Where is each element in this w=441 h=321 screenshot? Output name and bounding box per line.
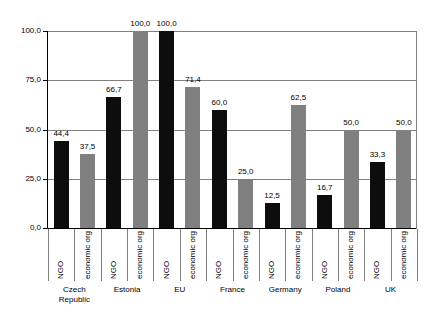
y-axis-tick-label: 75,0	[25, 76, 41, 84]
y-axis-tick-mark	[43, 31, 48, 32]
y-axis-tick-label: 25,0	[25, 175, 41, 183]
bar-value-label: 25,0	[229, 168, 263, 176]
country-group-separator	[259, 229, 260, 281]
bar[interactable]	[133, 31, 148, 228]
bar-chart: 0,025,050,075,0100,0 44,437,566,7100,010…	[0, 0, 441, 321]
series-label-ngo: NGO	[268, 261, 276, 279]
series-label-ngo: NGO	[373, 261, 381, 279]
bar[interactable]	[212, 110, 227, 228]
bar-value-label: 12,5	[255, 192, 289, 200]
bar-value-label: 37,5	[71, 143, 105, 151]
axis-separator	[74, 229, 75, 281]
bar[interactable]	[238, 179, 253, 228]
country-label: Czech Republic	[44, 285, 104, 305]
y-axis-tick-mark	[43, 228, 48, 229]
country-label: UK	[361, 285, 421, 295]
series-label-ngo: NGO	[163, 261, 171, 279]
bars-layer: 44,437,566,7100,0100,071,460,025,012,562…	[48, 31, 417, 228]
axis-separator	[391, 229, 392, 281]
series-label-economic-org: economic org	[136, 231, 144, 279]
y-axis-tick-mark	[43, 130, 48, 131]
bar-value-label: 33,3	[360, 151, 394, 159]
bar-value-label: 60,0	[202, 99, 236, 107]
series-label-economic-org: economic org	[189, 231, 197, 279]
bar[interactable]	[370, 162, 385, 228]
axis-separator	[338, 229, 339, 281]
axis-separator	[285, 229, 286, 281]
y-axis-tick-label: 0,0	[30, 224, 41, 232]
axis-separator	[180, 229, 181, 281]
axis-separator	[127, 229, 128, 281]
series-label-economic-org: economic org	[84, 231, 92, 279]
bar[interactable]	[265, 203, 280, 228]
y-axis-tick-mark	[43, 80, 48, 81]
bar[interactable]	[317, 195, 332, 228]
country-label-band: Czech RepublicEstoniaEUFranceGermanyPola…	[48, 281, 417, 321]
bar-value-label: 44,4	[44, 130, 78, 138]
bar-value-label: 66,7	[97, 86, 131, 94]
series-label-ngo: NGO	[215, 261, 223, 279]
series-label-ngo: NGO	[57, 261, 65, 279]
series-label-band: NGOeconomic orgNGOeconomic orgNGOeconomi…	[48, 229, 417, 281]
bar[interactable]	[80, 154, 95, 228]
y-axis-tick-label: 100,0	[21, 27, 41, 35]
bar-value-label: 16,7	[308, 184, 342, 192]
country-label: Estonia	[97, 285, 157, 295]
axis-separator	[417, 229, 418, 281]
bar-value-label: 62,5	[281, 94, 315, 102]
country-label: Germany	[255, 285, 315, 295]
axis-separator	[233, 229, 234, 281]
series-label-economic-org: economic org	[242, 231, 250, 279]
bar-value-label: 50,0	[387, 119, 421, 127]
country-label: France	[203, 285, 263, 295]
series-label-economic-org: economic org	[400, 231, 408, 279]
series-label-economic-org: economic org	[347, 231, 355, 279]
country-group-separator	[153, 229, 154, 281]
country-group-separator	[364, 229, 365, 281]
country-label: EU	[150, 285, 210, 295]
bar[interactable]	[54, 141, 69, 228]
bar[interactable]	[344, 130, 359, 229]
country-group-separator	[101, 229, 102, 281]
y-axis-tick-label: 50,0	[25, 126, 41, 134]
bar[interactable]	[106, 97, 121, 228]
bar[interactable]	[185, 87, 200, 228]
country-group-separator	[206, 229, 207, 281]
series-label-economic-org: economic org	[294, 231, 302, 279]
bar-value-label: 100,0	[150, 20, 184, 28]
bar[interactable]	[159, 31, 174, 228]
country-group-separator	[312, 229, 313, 281]
bar-value-label: 71,4	[176, 76, 210, 84]
series-label-ngo: NGO	[321, 261, 329, 279]
country-label: Poland	[308, 285, 368, 295]
y-axis-tick-mark	[43, 179, 48, 180]
y-axis: 0,025,050,075,0100,0	[0, 0, 44, 321]
bar[interactable]	[396, 130, 411, 229]
series-label-ngo: NGO	[110, 261, 118, 279]
bar[interactable]	[291, 105, 306, 228]
country-group-separator	[48, 229, 49, 281]
bar-value-label: 50,0	[334, 119, 368, 127]
